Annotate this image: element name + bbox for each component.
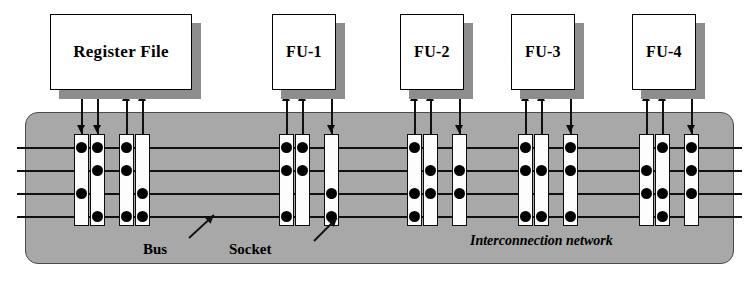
socket-connection-dot [297,142,308,153]
socket-connection-dot [281,165,292,176]
socket-connection-dot [425,188,436,199]
socket-connection-dot [326,188,337,199]
socket-connection-dot [657,142,668,153]
socket-connection-dot [686,165,697,176]
socket-connection-dot [520,165,531,176]
socket-connection-dot [641,188,652,199]
socket-fu2-out[interactable] [452,134,467,226]
socket-connection-dot [565,142,576,153]
socket-connection-dot [520,142,531,153]
unit-box-fu-3[interactable]: FU-3 [511,14,575,90]
arrowhead-down-fu2-out [455,125,463,133]
unit-box-register-file[interactable]: Register File [50,14,192,90]
pointer-arrow-bus-label [177,203,226,250]
unit-box-fu-4[interactable]: FU-4 [632,14,696,90]
socket-connection-dot [121,211,132,222]
unit-box-fu-1[interactable]: FU-1 [272,14,336,90]
socket-connection-dot [657,211,668,222]
socket-connection-dot [137,211,148,222]
unit-label-register-file: Register File [73,42,169,62]
arrowhead-down-fu4-out [687,125,695,133]
arrowhead-down-rf-out-b [93,125,101,133]
socket-connection-dot [536,211,547,222]
unit-label-fu-3: FU-3 [525,43,561,61]
unit-label-fu-1: FU-1 [286,43,322,61]
socket-connection-dot [121,142,132,153]
socket-connection-dot [137,188,148,199]
socket-connection-dot [409,188,420,199]
socket-connection-dot [92,142,103,153]
socket-fu2-in-b[interactable] [423,134,438,226]
unit-label-fu-4: FU-4 [646,43,682,61]
arrowhead-down-rf-out-a [77,125,85,133]
unit-box-fu-2[interactable]: FU-2 [400,14,464,90]
socket-connection-dot [536,165,547,176]
socket-connection-dot [520,211,531,222]
socket-connection-dot [409,211,420,222]
socket-connection-dot [686,142,697,153]
interconnection-network-label: Interconnection network [470,233,613,249]
socket-connection-dot [454,188,465,199]
socket-connection-dot [121,165,132,176]
socket-connection-dot [76,142,87,153]
socket-connection-dot [281,142,292,153]
socket-connection-dot [641,165,652,176]
tta-interconnection-diagram: Register FileFU-1FU-2FU-3FU-4Interconnec… [0,0,753,283]
unit-label-fu-2: FU-2 [414,43,450,61]
socket-connection-dot [281,211,292,222]
socket-connection-dot [454,165,465,176]
arrowhead-down-fu3-out [566,125,574,133]
socket-connection-dot [565,165,576,176]
annotation-bus-label: Bus [143,241,167,258]
socket-connection-dot [657,188,668,199]
socket-fu4-in-a[interactable] [639,134,654,226]
socket-connection-dot [425,165,436,176]
socket-connection-dot [76,188,87,199]
socket-connection-dot [686,188,697,199]
socket-connection-dot [409,142,420,153]
socket-connection-dot [92,165,103,176]
socket-connection-dot [297,165,308,176]
socket-connection-dot [92,211,103,222]
arrowhead-down-fu1-out [327,125,335,133]
socket-connection-dot [565,211,576,222]
annotation-socket-label: Socket [229,241,272,258]
pointer-arrow-socket-label [302,206,349,253]
